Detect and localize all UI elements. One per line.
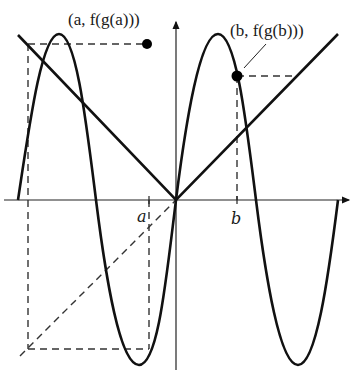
function-diagram: (a, f(g(a))) (b, f(g(b))) a b	[0, 0, 352, 370]
point-a-dot	[142, 39, 152, 49]
point-a-label: (a, f(g(a)))	[68, 10, 140, 29]
tick-a-label: a	[137, 207, 147, 226]
point-b-dot	[232, 71, 243, 82]
tick-b-label: b	[231, 209, 241, 228]
point-b-label: (b, f(g(b)))	[230, 21, 304, 40]
point-b-leader	[244, 44, 266, 68]
